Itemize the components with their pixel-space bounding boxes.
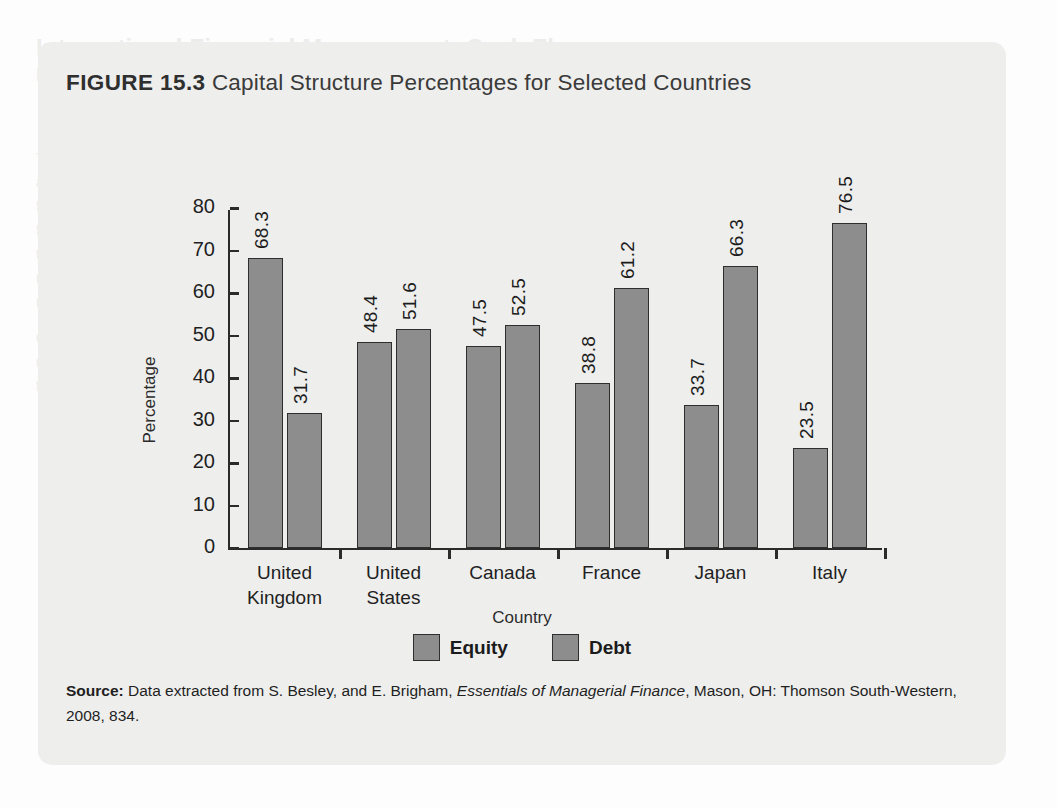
y-tick-label: 30: [193, 408, 215, 431]
bar-value-label: 61.2: [617, 241, 639, 279]
y-tick-label: 20: [193, 450, 215, 473]
x-axis-tick: [339, 548, 342, 559]
source-label: Source:: [66, 682, 124, 699]
y-tick-label: 50: [193, 323, 215, 346]
bar-value-label: 38.8: [578, 336, 600, 374]
x-axis-category-label: Italy: [745, 560, 915, 585]
source-text-before: Data extracted from S. Besley, and E. Br…: [124, 682, 457, 699]
y-tick-label: 70: [193, 238, 215, 261]
bar-group: 23.576.5Italy: [775, 210, 884, 548]
y-tick-label: 60: [193, 280, 215, 303]
bar-equity[interactable]: 38.8: [575, 383, 610, 548]
legend-swatch-icon: [413, 634, 440, 661]
bar-debt[interactable]: 31.7: [287, 413, 322, 548]
bar-group: 48.451.6UnitedStates: [339, 210, 448, 548]
bar-group: 68.331.7UnitedKingdom: [230, 210, 339, 548]
bar-group: 47.552.5Canada: [448, 210, 557, 548]
figure-card: FIGURE 15.3 Capital Structure Percentage…: [38, 42, 1006, 765]
bar-value-label: 47.5: [469, 299, 491, 337]
bar-value-label: 68.3: [251, 211, 273, 249]
bar-value-label: 23.5: [796, 401, 818, 439]
x-axis-tick: [775, 548, 778, 559]
figure-title-text: Capital Structure Percentages for Select…: [212, 70, 751, 95]
legend-label-equity: Equity: [450, 637, 508, 659]
bar-group: 33.766.3Japan: [666, 210, 775, 548]
x-axis-category-line: Italy: [745, 560, 915, 585]
bar-equity[interactable]: 23.5: [793, 448, 828, 548]
bar-debt[interactable]: 52.5: [505, 325, 540, 548]
bar-value-label: 33.7: [687, 358, 709, 396]
y-tick-label: 80: [193, 195, 215, 218]
bar-value-label: 76.5: [835, 176, 857, 214]
x-axis-tick: [557, 548, 560, 559]
source-title-italic: Essentials of Managerial Finance: [457, 682, 685, 699]
bar-value-label: 66.3: [726, 219, 748, 257]
figure-source-note: Source: Data extracted from S. Besley, a…: [66, 678, 966, 728]
chart-plot-area: 0102030405060708068.331.7UnitedKingdom48…: [228, 210, 882, 550]
y-tick-label: 10: [193, 493, 215, 516]
bar-equity[interactable]: 47.5: [466, 346, 501, 548]
figure-title: FIGURE 15.3 Capital Structure Percentage…: [66, 68, 946, 97]
bar-debt[interactable]: 51.6: [396, 329, 431, 548]
bar-equity[interactable]: 33.7: [684, 405, 719, 548]
x-axis-tick: [448, 548, 451, 559]
bar-value-label: 52.5: [508, 278, 530, 316]
bar-value-label: 48.4: [360, 295, 382, 333]
bar-equity[interactable]: 48.4: [357, 342, 392, 548]
chart-legend: Equity Debt: [38, 634, 1006, 661]
bar-group: 38.861.2France: [557, 210, 666, 548]
x-axis-tick: [666, 548, 669, 559]
x-axis-tick: [884, 548, 887, 559]
bar-value-label: 31.7: [290, 366, 312, 404]
x-axis-category-line: States: [309, 585, 479, 610]
figure-number: FIGURE 15.3: [66, 70, 205, 95]
bar-debt[interactable]: 66.3: [723, 266, 758, 548]
legend-swatch-icon: [552, 634, 579, 661]
y-tick-label: 40: [193, 365, 215, 388]
legend-item-debt[interactable]: Debt: [552, 634, 631, 661]
legend-label-debt: Debt: [589, 637, 631, 659]
book-page: International Financial Management: Cash…: [0, 0, 1057, 808]
bar-debt[interactable]: 76.5: [832, 223, 867, 548]
y-tick-label: 0: [204, 535, 215, 558]
bar-debt[interactable]: 61.2: [614, 288, 649, 548]
x-axis-title: Country: [38, 608, 1006, 628]
bar-equity[interactable]: 68.3: [248, 258, 283, 548]
y-axis-title: Percentage: [140, 357, 160, 444]
legend-item-equity[interactable]: Equity: [413, 634, 508, 661]
bar-value-label: 51.6: [399, 282, 421, 320]
chart-plot-wrapper: Percentage 0102030405060708068.331.7Unit…: [38, 172, 1006, 642]
